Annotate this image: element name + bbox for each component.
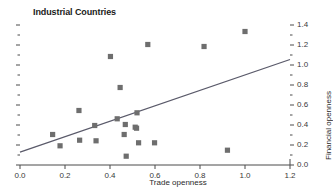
scatter-point (124, 154, 129, 159)
y-axis-tick-label: 0.0 (297, 160, 308, 169)
scatter-point (123, 122, 128, 127)
scatter-point (145, 42, 150, 47)
scatter-point (134, 126, 139, 131)
y-axis-tick-label: 1.0 (297, 60, 308, 69)
scatter-point (115, 116, 120, 121)
scatter-point (93, 138, 98, 143)
scatter-point (50, 132, 55, 137)
scatter-point (122, 132, 127, 137)
scatter-point (57, 143, 62, 148)
x-axis-tick-label: 0.4 (104, 171, 115, 180)
scatter-point (108, 54, 113, 59)
scatter-point (118, 85, 123, 90)
y-axis-tick-label: 1.4 (297, 20, 308, 29)
x-axis-tick-label: 0.2 (59, 171, 70, 180)
scatter-point (92, 123, 97, 128)
x-axis-tick-label: 0.0 (14, 171, 25, 180)
scatter-point (134, 110, 139, 115)
scatter-point (152, 140, 157, 145)
scatter-point (136, 140, 141, 145)
scatter-plot-canvas (0, 0, 333, 193)
y-axis-title: Financial openness (324, 91, 333, 160)
scatter-point (225, 148, 230, 153)
scatter-point (201, 44, 206, 49)
chart-figure: Industrial Countries 0.00.20.40.60.81.01… (0, 0, 333, 193)
x-axis-tick-label: 1.0 (239, 171, 250, 180)
y-axis-tick-label: 0.6 (297, 100, 308, 109)
x-axis-title: Trade openness (149, 178, 207, 187)
scatter-point (76, 108, 81, 113)
trend-line (20, 60, 290, 153)
x-axis-tick-label: 1.2 (284, 171, 295, 180)
scatter-point (77, 138, 82, 143)
y-axis-tick-label: 0.2 (297, 140, 308, 149)
scatter-point (242, 29, 247, 34)
y-axis-tick-label: 0.8 (297, 80, 308, 89)
y-axis-tick-label: 0.4 (297, 120, 308, 129)
y-axis-tick-label: 1.2 (297, 40, 308, 49)
chart-title: Industrial Countries (33, 7, 116, 17)
